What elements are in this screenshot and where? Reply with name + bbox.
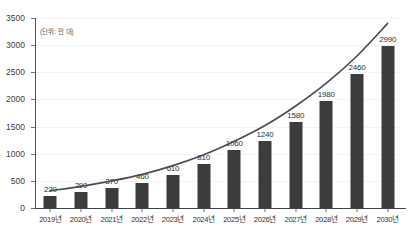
bar [136, 183, 149, 208]
chart-container: (단위: 만 대) 050010001500200025003000350022… [0, 0, 408, 236]
bar-value-label: 290 [75, 181, 88, 190]
gridline [35, 154, 403, 155]
x-axis-tick [234, 209, 235, 212]
bar-value-label: 1060 [226, 139, 243, 148]
bar-value-label: 810 [197, 153, 210, 162]
x-axis-line [35, 208, 406, 209]
y-axis-tick-label: 1000 [0, 149, 25, 159]
bar [75, 192, 88, 208]
bar-value-label: 1580 [287, 111, 304, 120]
x-axis-tick [173, 209, 174, 212]
gridline [35, 99, 403, 100]
x-axis-tick-label: 2021년 [100, 213, 122, 224]
x-axis-tick [326, 209, 327, 212]
x-axis-tick [265, 209, 266, 212]
bar [351, 74, 364, 208]
bar [44, 196, 57, 208]
y-axis-line [35, 18, 36, 208]
x-axis-tick-label: 2022년 [131, 213, 153, 224]
y-axis-tick-label: 3500 [0, 13, 25, 23]
x-axis-tick [357, 209, 358, 212]
gridline [35, 127, 403, 128]
bar-value-label: 1240 [257, 130, 274, 139]
bar [289, 122, 302, 208]
bar [320, 101, 333, 208]
x-axis-tick [111, 209, 112, 212]
x-axis-tick [142, 209, 143, 212]
x-axis-tick [295, 209, 296, 212]
x-axis-tick [387, 209, 388, 212]
x-axis-tick-label: 2019년 [39, 213, 61, 224]
bar [197, 164, 210, 208]
x-axis-tick-label: 2025년 [223, 213, 245, 224]
x-axis-tick-label: 2030년 [376, 213, 398, 224]
bar [105, 188, 118, 208]
gridline [35, 45, 403, 46]
x-axis-tick-label: 2026년 [254, 213, 276, 224]
y-axis-tick-label: 2500 [0, 67, 25, 77]
y-axis-tick-label: 3000 [0, 40, 25, 50]
bar-value-label: 370 [105, 177, 118, 186]
bar-value-label: 460 [136, 172, 149, 181]
x-axis-tick-label: 2023년 [162, 213, 184, 224]
gridline [35, 181, 403, 182]
bar-value-label: 2460 [349, 63, 366, 72]
bar [259, 141, 272, 208]
x-axis-tick-label: 2028년 [315, 213, 337, 224]
bar-value-label: 610 [167, 164, 180, 173]
plot-area: 0500100015002000250030003500220290370460… [35, 18, 403, 208]
bar [228, 150, 241, 208]
x-axis-tick [81, 209, 82, 212]
y-axis-tick-label: 500 [0, 176, 25, 186]
bar-value-label: 1980 [318, 90, 335, 99]
y-axis-tick-label: 2000 [0, 94, 25, 104]
x-axis-tick-label: 2027년 [284, 213, 306, 224]
x-axis-tick-label: 2029년 [346, 213, 368, 224]
x-axis-tick-label: 2024년 [192, 213, 214, 224]
bar [381, 46, 394, 208]
bar [167, 175, 180, 208]
y-axis-tick-label: 0 [0, 203, 25, 213]
bar-value-label: 2990 [379, 35, 396, 44]
x-axis-tick [203, 209, 204, 212]
y-axis-tick-label: 1500 [0, 122, 25, 132]
x-axis-tick [50, 209, 51, 212]
gridline [35, 18, 403, 19]
x-axis-tick-label: 2020년 [70, 213, 92, 224]
bar-value-label: 220 [44, 185, 57, 194]
